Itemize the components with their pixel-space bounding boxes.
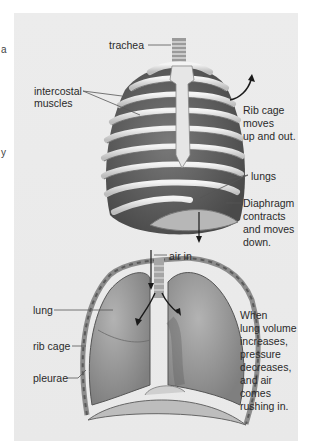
rib-cage-figure xyxy=(104,38,255,243)
caption-line: lung volume xyxy=(240,322,297,334)
label-air-in: air in xyxy=(169,250,192,262)
label-pleurae: pleurae xyxy=(33,372,68,384)
label-diaphragm-line4: down. xyxy=(243,236,271,248)
label-lungs: lungs xyxy=(251,170,276,182)
caption-line: When xyxy=(240,309,267,321)
label-rib-cage-moves-line1: Rib cage xyxy=(243,104,284,116)
caption-line: comes xyxy=(240,387,271,399)
label-intercostal-muscles-line2: muscles xyxy=(34,97,73,109)
label-diaphragm-line3: and moves xyxy=(243,223,294,235)
lungs-figure xyxy=(83,250,259,425)
label-diaphragm-line2: contracts xyxy=(243,210,286,222)
caption-line: increases, xyxy=(240,335,288,347)
caption-line: decreases, xyxy=(240,361,291,373)
caption-line: rushing in. xyxy=(240,400,288,412)
label-trachea: trachea xyxy=(109,39,144,51)
label-intercostal-muscles-line1: intercostal xyxy=(34,85,82,97)
label-rib-cage-moves-line3: up and out. xyxy=(243,130,296,142)
label-lung: lung xyxy=(33,304,53,316)
caption-line: pressure xyxy=(240,348,281,360)
caption-line: and air xyxy=(240,374,272,386)
label-rib-cage-moves-line2: moves xyxy=(243,117,274,129)
label-rib-cage: rib cage xyxy=(33,340,70,352)
label-diaphragm-line1: Diaphragm xyxy=(243,197,294,209)
